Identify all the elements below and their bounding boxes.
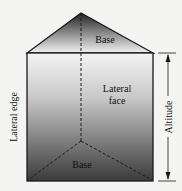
label-lateral-face-line2: face: [109, 95, 126, 106]
label-bottom-base: Base: [72, 159, 92, 170]
altitude-arrow-down-icon: [166, 172, 171, 180]
label-altitude: Altitude: [163, 100, 174, 133]
triangular-prism-diagram: Base Lateral face Base Lateral edge Alti…: [0, 0, 182, 191]
top-base-face: [27, 13, 153, 53]
label-top-base: Base: [95, 34, 115, 45]
altitude-arrow-up-icon: [166, 54, 171, 62]
label-lateral-edge: Lateral edge: [8, 92, 19, 142]
label-lateral-face-line1: Lateral: [103, 83, 132, 94]
